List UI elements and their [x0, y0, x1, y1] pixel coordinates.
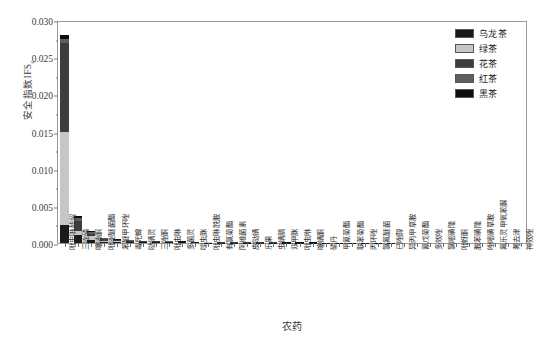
x-tick-mark [352, 243, 353, 247]
y-tick-mark [54, 245, 58, 246]
x-tick-mark [430, 243, 431, 247]
legend-label: 黑茶 [479, 87, 498, 100]
x-tick-label: 氯氟醚菌 [380, 221, 391, 250]
x-tick-mark [156, 243, 157, 247]
x-tick-label: 虫螨腈 [275, 228, 286, 250]
x-tick-label: 啶虫脒 [197, 228, 208, 250]
legend-label: 花茶 [479, 57, 498, 70]
x-tick-label: 有氯菊酯 [223, 221, 234, 250]
x-tick-label: 毒死蜱 [132, 228, 143, 250]
y-tick-label: 0.000 [12, 240, 58, 250]
x-tick-label: 已唑醇 [393, 228, 404, 250]
x-tick-label: 吡唑醚菌酯 [105, 214, 116, 250]
x-tick-label: 异丙甲草胺 [406, 214, 417, 250]
bar-segment [60, 43, 68, 131]
x-tick-label: 甲氰菊酯 [340, 221, 351, 250]
x-tick-mark [117, 243, 118, 247]
x-tick-label: 唑嘧磺草胺 [484, 214, 495, 250]
bar [60, 35, 68, 243]
x-tick-label: 氯嘧磺隆 [445, 221, 456, 250]
bar-segment [60, 132, 68, 225]
chart-figure: 安全指数IFSc 0.0000.0050.0100.0150.0200.0250… [0, 0, 547, 349]
legend-label: 红茶 [479, 72, 498, 85]
x-tick-label: 胺苯磺隆 [471, 221, 482, 250]
x-tick-mark [378, 243, 379, 247]
x-tick-label: 三唑酮 [158, 228, 169, 250]
x-tick-label: 氰戊菊酯 [419, 221, 430, 250]
x-tick-label: 噻螨酮 [314, 228, 325, 250]
x-tick-label: 阿维菌素 [236, 221, 247, 250]
legend-item: 红茶 [455, 72, 507, 85]
x-tick-mark [404, 243, 405, 247]
legend-swatch [455, 59, 474, 68]
x-tick-mark [169, 243, 170, 247]
x-tick-mark [391, 243, 392, 247]
x-tick-label: 三唑磷 [79, 228, 90, 250]
x-tick-label: 氟乐灵甲氧苯脲 [497, 200, 508, 250]
legend-label: 乌龙茶 [479, 27, 507, 40]
y-tick-label: 0.030 [12, 17, 58, 27]
x-tick-label: 多菌灵 [184, 228, 195, 250]
x-tick-label: 吡虫咻 [301, 228, 312, 250]
legend-item: 乌龙茶 [455, 27, 507, 40]
legend-swatch [455, 89, 474, 98]
x-tick-label: 吡虫啉 [171, 228, 182, 250]
y-tick-label: 0.015 [12, 129, 58, 139]
y-tick-label: 0.005 [12, 203, 58, 213]
x-tick-label: 皮哒螨 [249, 228, 260, 250]
x-axis-title: 农药 [57, 318, 527, 333]
chart-legend: 乌龙茶绿茶花茶红茶黑茶 [455, 27, 507, 100]
legend-item: 花茶 [455, 57, 507, 70]
x-tick-label: 丙环唑 [367, 228, 378, 250]
x-tick-mark [443, 243, 444, 247]
legend-swatch [455, 44, 474, 53]
x-tick-mark [195, 243, 196, 247]
x-tick-label: 多效唑 [432, 228, 443, 250]
x-tick-label: 苯醚甲环唑 [119, 214, 130, 250]
x-tick-label: 哒螨灵 [145, 228, 156, 250]
y-tick-label: 0.010 [12, 166, 58, 176]
x-tick-label: 双甲脒 [288, 228, 299, 250]
legend-swatch [455, 29, 474, 38]
x-tick-label: 吡蚜酮 [458, 228, 469, 250]
x-tick-label: 莠去津 [510, 228, 521, 250]
legend-item: 绿茶 [455, 42, 507, 55]
x-tick-label: 神效唑 [523, 228, 534, 250]
legend-swatch [455, 74, 474, 83]
x-tick-mark [417, 243, 418, 247]
x-tick-label: 乐果 [262, 236, 273, 250]
x-tick-label: 硫丹 [327, 236, 338, 250]
x-tick-label: 吡虫啉酰胺 [210, 214, 221, 250]
x-tick-mark [182, 243, 183, 247]
legend-label: 绿茶 [479, 42, 498, 55]
x-tick-mark [143, 243, 144, 247]
x-tick-label: 联苯菊酯 [354, 221, 365, 250]
x-tick-label: 噻嗪酮 [92, 228, 103, 250]
x-tick-mark [208, 243, 209, 247]
y-tick-label: 0.025 [12, 54, 58, 64]
x-tick-label: 吡虫啉残留 [66, 214, 77, 250]
legend-item: 黑茶 [455, 87, 507, 100]
y-tick-label: 0.020 [12, 91, 58, 101]
